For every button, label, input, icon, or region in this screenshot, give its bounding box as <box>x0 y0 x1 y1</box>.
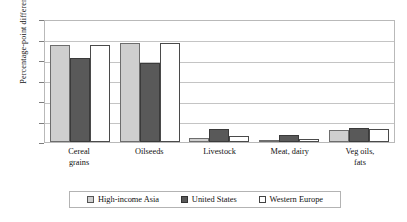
plot-area <box>44 20 395 143</box>
legend-item[interactable]: United States <box>181 195 237 204</box>
legend-label: Western Europe <box>270 195 324 204</box>
legend-swatch <box>259 196 266 203</box>
chart-legend: High-income AsiaUnited StatesWestern Eur… <box>69 191 341 208</box>
bar[interactable] <box>329 130 349 142</box>
bar[interactable] <box>209 129 229 142</box>
bar[interactable] <box>299 139 319 142</box>
legend-item[interactable]: Western Europe <box>259 195 324 204</box>
bar[interactable] <box>140 63 160 142</box>
y-axis-title: Percentage-point difference <box>14 0 32 102</box>
x-tick-label: Oilseeds <box>114 147 184 168</box>
x-tick-label: Cerealgrains <box>44 147 114 168</box>
bar[interactable] <box>120 43 140 142</box>
x-tick-label: Livestock <box>184 147 254 168</box>
bar[interactable] <box>160 43 180 142</box>
bar-group <box>254 21 324 142</box>
x-axis-labels: CerealgrainsOilseedsLivestockMeat, dairy… <box>44 147 395 168</box>
bar[interactable] <box>189 138 209 142</box>
bar-group <box>185 21 255 142</box>
x-tick-label: Veg oils,fats <box>325 147 395 168</box>
bar[interactable] <box>50 45 70 142</box>
y-axis-title-wrap: Percentage-point difference <box>2 18 16 144</box>
bar[interactable] <box>70 58 90 142</box>
bar-group <box>324 21 394 142</box>
bar[interactable] <box>349 128 369 142</box>
legend-label: High-income Asia <box>98 195 159 204</box>
bar[interactable] <box>229 136 249 142</box>
bar[interactable] <box>369 129 389 142</box>
bar-group <box>45 21 115 142</box>
legend-swatch <box>87 196 94 203</box>
bar[interactable] <box>259 140 279 142</box>
bar-group <box>115 21 185 142</box>
bar[interactable] <box>90 45 110 142</box>
y-tick-mark <box>39 143 44 144</box>
bar-chart-figure: Percentage-point difference 024681012 Ce… <box>0 0 407 222</box>
legend-item[interactable]: High-income Asia <box>87 195 159 204</box>
legend-label: United States <box>192 195 237 204</box>
legend-swatch <box>181 196 188 203</box>
x-tick-label: Meat, dairy <box>255 147 325 168</box>
bar[interactable] <box>279 135 299 142</box>
bar-groups <box>45 21 394 142</box>
